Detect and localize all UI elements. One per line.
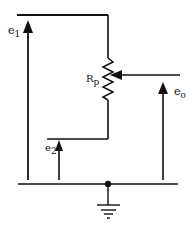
e1-arrowhead	[23, 20, 33, 33]
potentiometer-resistor	[103, 58, 113, 100]
e1-label: e1	[8, 24, 20, 39]
rp-label: Rp	[86, 73, 100, 87]
circuit-diagram: e1 Rp eo e2	[0, 0, 193, 234]
eo-arrowhead	[158, 82, 168, 94]
ground-icon	[97, 205, 120, 218]
eo-label: eo	[174, 85, 186, 100]
e2-label: e2	[45, 142, 57, 156]
